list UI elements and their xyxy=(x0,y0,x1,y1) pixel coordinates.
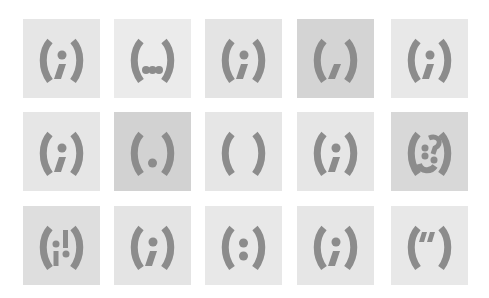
question-scramble-glyph-icon xyxy=(391,112,468,191)
symbol-tile[interactable] xyxy=(205,19,282,98)
symbol-tile[interactable] xyxy=(391,112,468,191)
symbol-tile[interactable] xyxy=(114,19,191,98)
symbol-tile[interactable] xyxy=(23,112,100,191)
empty-glyph-icon xyxy=(205,112,282,191)
symbol-tile[interactable] xyxy=(205,112,282,191)
colon-glyph-icon xyxy=(205,206,282,285)
period-glyph-icon xyxy=(114,112,191,191)
symbol-tile[interactable] xyxy=(114,206,191,285)
semicolon-i-glyph-icon xyxy=(391,19,468,98)
semicolon-i-glyph-icon xyxy=(23,19,100,98)
symbol-tile[interactable] xyxy=(205,206,282,285)
symbol-tile[interactable] xyxy=(23,206,100,285)
symbol-tile[interactable] xyxy=(297,206,374,285)
ellipsis-glyph-icon xyxy=(114,19,191,98)
quote-glyph-icon xyxy=(391,206,468,285)
exclaim-i-glyph-icon xyxy=(23,206,100,285)
semicolon-i-glyph-icon xyxy=(297,206,374,285)
symbol-tile[interactable] xyxy=(391,206,468,285)
symbol-tile[interactable] xyxy=(297,112,374,191)
comma-glyph-icon xyxy=(297,19,374,98)
symbol-tile[interactable] xyxy=(391,19,468,98)
semicolon-i-glyph-icon xyxy=(297,112,374,191)
symbol-tile[interactable] xyxy=(23,19,100,98)
semicolon-i-glyph-icon xyxy=(23,112,100,191)
semicolon-i-glyph-icon xyxy=(205,19,282,98)
semicolon-i-glyph-icon xyxy=(114,206,191,285)
symbol-tile[interactable] xyxy=(114,112,191,191)
symbol-tile-grid xyxy=(0,0,489,298)
symbol-tile[interactable] xyxy=(297,19,374,98)
